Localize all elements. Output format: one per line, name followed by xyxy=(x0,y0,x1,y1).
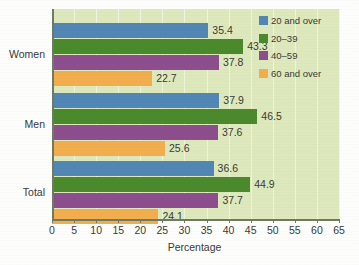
legend-label-3: 60 and over xyxy=(271,68,321,79)
legend-swatch-icon-3 xyxy=(259,69,268,78)
x-tick-label-10: 10 xyxy=(84,224,108,236)
legend-item-3: 60 and over xyxy=(259,66,337,81)
legend-item-0: 20 and over xyxy=(259,13,337,28)
bar-value-men-2: 37.6 xyxy=(222,125,242,140)
bar-total-0 xyxy=(52,161,214,176)
x-tick-mark-45 xyxy=(251,220,252,223)
x-tick-label-15: 15 xyxy=(106,224,130,236)
x-tick-mark-20 xyxy=(140,220,141,223)
x-tick-label-20: 20 xyxy=(128,224,152,236)
x-tick-mark-35 xyxy=(207,220,208,223)
bar-value-women-0: 35.4 xyxy=(212,23,232,38)
legend-label-0: 20 and over xyxy=(271,15,321,26)
x-tick-mark-65 xyxy=(339,220,340,223)
bar-women-1 xyxy=(52,39,243,54)
bar-value-total-3: 24.1 xyxy=(162,209,182,224)
legend-swatch-icon-1 xyxy=(259,34,268,43)
gridline-65 xyxy=(339,9,340,219)
bar-value-men-0: 37.9 xyxy=(223,93,243,108)
x-tick-mark-30 xyxy=(184,220,185,223)
x-tick-mark-50 xyxy=(273,220,274,223)
bar-men-3 xyxy=(52,141,165,156)
x-tick-mark-40 xyxy=(229,220,230,223)
y-axis-label-men: Men xyxy=(0,118,45,130)
legend-swatch-icon-2 xyxy=(259,51,268,60)
y-axis-label-total: Total xyxy=(0,186,45,198)
x-tick-mark-60 xyxy=(317,220,318,223)
x-tick-label-50: 50 xyxy=(261,224,285,236)
bar-chart-figure: 35.443.337.822.737.946.537.625.636.644.9… xyxy=(0,0,359,265)
x-tick-mark-15 xyxy=(118,220,119,223)
x-tick-label-0: 0 xyxy=(40,224,64,236)
x-tick-label-25: 25 xyxy=(150,224,174,236)
bar-value-men-1: 46.5 xyxy=(261,109,281,124)
bar-men-1 xyxy=(52,109,257,124)
x-axis-title: Percentage xyxy=(0,241,359,253)
x-tick-mark-5 xyxy=(74,220,75,223)
legend-item-2: 40–59 xyxy=(259,48,337,63)
x-tick-label-30: 30 xyxy=(172,224,196,236)
bar-total-1 xyxy=(52,177,250,192)
bar-men-0 xyxy=(52,93,219,108)
x-tick-label-5: 5 xyxy=(62,224,86,236)
y-axis-label-women: Women xyxy=(0,48,45,60)
x-tick-mark-55 xyxy=(295,220,296,223)
bar-value-men-3: 25.6 xyxy=(169,141,189,156)
legend-item-1: 20–39 xyxy=(259,31,337,46)
legend-swatch-icon-0 xyxy=(259,16,268,25)
x-tick-mark-0 xyxy=(52,220,53,223)
x-tick-label-60: 60 xyxy=(305,224,329,236)
x-tick-mark-10 xyxy=(96,220,97,223)
bar-women-0 xyxy=(52,23,208,38)
legend-label-2: 40–59 xyxy=(271,50,297,61)
chart-legend: 20 and over20–3940–5960 and over xyxy=(259,13,337,83)
bar-value-total-1: 44.9 xyxy=(254,177,274,192)
x-tick-label-35: 35 xyxy=(195,224,219,236)
y-axis-tick-labels: WomenMenTotal xyxy=(0,9,48,219)
bar-value-women-2: 37.8 xyxy=(223,55,243,70)
x-tick-label-40: 40 xyxy=(217,224,241,236)
bar-total-3 xyxy=(52,209,158,224)
bar-total-2 xyxy=(52,193,218,208)
x-tick-mark-25 xyxy=(162,220,163,223)
bar-women-3 xyxy=(52,71,152,86)
bar-men-2 xyxy=(52,125,218,140)
legend-label-1: 20–39 xyxy=(271,33,297,44)
x-axis-title-text: Percentage xyxy=(168,241,222,253)
x-tick-label-45: 45 xyxy=(239,224,263,236)
bar-value-total-0: 36.6 xyxy=(218,161,238,176)
x-tick-label-55: 55 xyxy=(283,224,307,236)
bar-value-women-3: 22.7 xyxy=(156,71,176,86)
x-tick-label-65: 65 xyxy=(327,224,351,236)
bar-women-2 xyxy=(52,55,219,70)
y-axis-line xyxy=(52,9,54,220)
bar-value-total-2: 37.7 xyxy=(222,193,242,208)
